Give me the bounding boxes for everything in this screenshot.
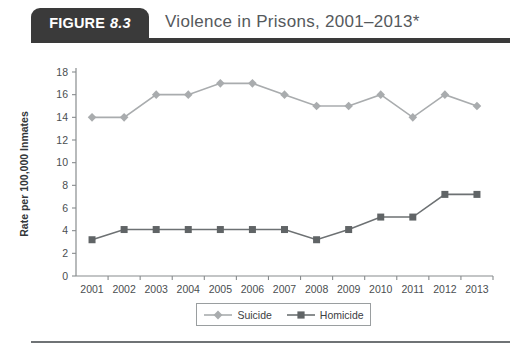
chart-plot-area: 024681012141618 200120022003200420052006…	[0, 50, 516, 315]
data-point-homicide-2012	[441, 191, 448, 198]
data-point-homicide-2008	[313, 236, 320, 243]
legend-item-suicide: Suicide	[203, 309, 271, 321]
legend-label-suicide: Suicide	[237, 309, 271, 321]
y-tick-label: 2	[62, 247, 68, 259]
data-point-homicide-2007	[281, 226, 288, 233]
figure-badge-word: FIGURE	[49, 15, 105, 31]
series-line-suicide	[92, 83, 477, 117]
x-tick-label: 2004	[177, 283, 201, 295]
footer-divider	[31, 341, 510, 343]
data-point-homicide-2006	[249, 226, 256, 233]
data-point-suicide-2013	[473, 102, 482, 111]
figure-title: Violence in Prisons, 2001–2013*	[165, 12, 420, 32]
y-tick-label: 10	[56, 156, 68, 168]
chart-series-group	[88, 79, 482, 243]
x-tick-label: 2007	[273, 283, 297, 295]
y-tick-label: 4	[62, 224, 68, 236]
x-tick-label: 2012	[433, 283, 457, 295]
y-tick-label: 12	[56, 134, 68, 146]
y-tick-label: 6	[62, 202, 68, 214]
data-point-homicide-2002	[121, 226, 128, 233]
data-point-suicide-2006	[248, 79, 257, 88]
data-point-suicide-2007	[280, 90, 289, 99]
x-tick-label: 2008	[305, 283, 329, 295]
data-point-suicide-2001	[88, 113, 97, 122]
x-tick-label: 2010	[369, 283, 393, 295]
y-tick-label: 16	[56, 88, 68, 100]
x-tick-label: 2006	[241, 283, 265, 295]
data-point-suicide-2004	[184, 90, 193, 99]
diamond-marker-icon	[203, 309, 233, 321]
y-tick-label: 0	[62, 270, 68, 282]
x-tick-label: 2011	[402, 283, 425, 295]
y-tick-label: 18	[56, 66, 68, 78]
data-point-homicide-2013	[473, 191, 480, 198]
data-point-homicide-2004	[185, 226, 192, 233]
x-tick-label: 2002	[112, 283, 136, 295]
data-point-suicide-2008	[312, 102, 321, 111]
legend-item-homicide: Homicide	[286, 309, 364, 321]
legend-label-homicide: Homicide	[320, 309, 364, 321]
x-tick-label: 2013	[465, 283, 489, 295]
y-axis: 024681012141618	[56, 66, 76, 282]
y-axis-title: Rate per 100,000 Inmates	[18, 111, 30, 237]
square-marker-icon	[286, 309, 316, 321]
figure-header: FIGURE 8.3 Violence in Prisons, 2001–201…	[0, 0, 516, 50]
y-tick-label: 8	[62, 179, 68, 191]
y-tick-label: 14	[56, 111, 68, 123]
x-tick-label: 2001	[80, 283, 104, 295]
x-tick-label: 2003	[145, 283, 169, 295]
header-divider	[31, 38, 510, 43]
chart-legend: Suicide Homicide	[196, 303, 371, 326]
data-point-suicide-2005	[216, 79, 225, 88]
data-point-homicide-2010	[377, 214, 384, 221]
line-chart: 024681012141618 200120022003200420052006…	[0, 50, 516, 315]
x-axis: 2001200220032004200520062007200820092010…	[76, 276, 493, 295]
data-point-homicide-2005	[217, 226, 224, 233]
figure-badge-number: 8.3	[110, 15, 131, 31]
data-point-homicide-2003	[153, 226, 160, 233]
x-tick-label: 2005	[209, 283, 233, 295]
figure-number-badge: FIGURE 8.3	[31, 8, 149, 38]
data-point-homicide-2011	[409, 214, 416, 221]
x-tick-label: 2009	[337, 283, 361, 295]
data-point-homicide-2001	[89, 236, 96, 243]
data-point-homicide-2009	[345, 226, 352, 233]
data-point-suicide-2009	[344, 102, 353, 111]
